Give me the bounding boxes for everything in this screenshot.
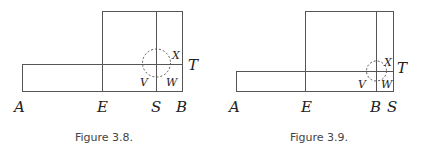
label-e: E: [300, 98, 312, 116]
caption: Figure 3.9.: [290, 131, 348, 144]
figure-3-8: A E S B T X V W Figure 3.8.: [12, 12, 199, 145]
label-t: T: [188, 56, 199, 74]
label-x: X: [383, 56, 393, 69]
figure-3-9: A E B S T X V W Figure 3.9.: [227, 12, 408, 145]
label-v: V: [140, 76, 149, 89]
label-s: S: [387, 98, 397, 116]
label-a: A: [12, 98, 25, 116]
label-a: A: [227, 98, 240, 116]
figures-canvas: A E S B T X V W Figure 3.8. A E B S T X …: [0, 0, 424, 148]
label-w: W: [381, 78, 394, 91]
label-x: X: [171, 49, 181, 62]
label-b: B: [369, 98, 381, 116]
label-b: B: [175, 98, 187, 116]
label-t: T: [397, 59, 408, 77]
label-w: W: [166, 76, 179, 89]
long-rectangle: [237, 72, 394, 92]
label-e: E: [96, 98, 108, 116]
caption: Figure 3.8.: [75, 131, 133, 144]
label-s: S: [151, 98, 161, 116]
label-v: V: [358, 78, 367, 91]
